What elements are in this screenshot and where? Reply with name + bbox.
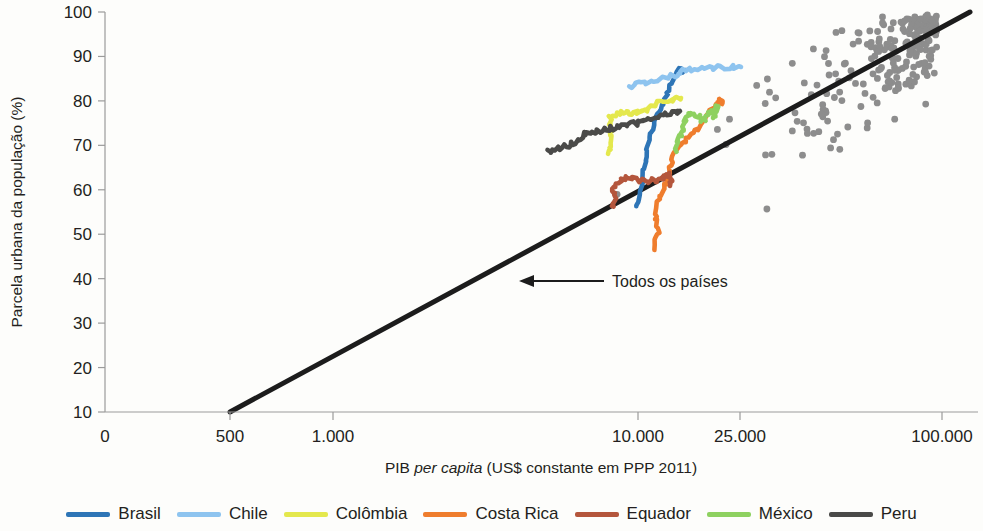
x-axis-title: PIB per capita (US$ constante em PPP 201… [385, 459, 697, 476]
scatter-point [794, 118, 801, 125]
scatter-point [910, 71, 917, 78]
legend-color-swatch [423, 512, 467, 517]
scatter-point [906, 77, 913, 84]
scatter-point [762, 100, 769, 107]
y-tick-label: 20 [73, 359, 92, 378]
scatter-point [890, 60, 897, 67]
scatter-point [907, 25, 914, 32]
legend-label: Brasil [118, 504, 161, 524]
scatter-point [926, 37, 933, 44]
x-tick-label: 1.000 [312, 427, 355, 446]
scatter-point [823, 47, 830, 54]
scatter-point [814, 82, 821, 89]
scatter-point [926, 53, 933, 60]
axes-layer [105, 12, 978, 412]
x-axis-title-text: PIB per capita (US$ constante em PPP 201… [385, 459, 697, 476]
scatter-point [844, 124, 851, 131]
scatter-point [801, 80, 808, 87]
scatter-point [764, 76, 771, 83]
annotation-arrow-head-icon [519, 275, 534, 287]
legend-item-brasil[interactable]: Brasil [66, 504, 161, 524]
x-tick-label: 25.000 [714, 427, 766, 446]
legend-label: Equador [627, 504, 691, 524]
legend-label: Costa Rica [475, 504, 558, 524]
legend-color-swatch [575, 512, 619, 517]
scatter-point [834, 131, 841, 138]
legend-color-swatch [284, 512, 328, 517]
scatter-point [762, 152, 769, 159]
scatter-point [882, 84, 889, 91]
scatter-point [839, 97, 846, 104]
chart-legend: BrasilChileColômbiaCosta RicaEquadorMéxi… [0, 497, 983, 531]
scatter-point [866, 28, 873, 35]
y-axis-title-text: Parcela urbana da população (%) [8, 97, 25, 328]
scatter-point [769, 151, 776, 158]
scatter-point [901, 17, 908, 24]
scatter-point [928, 47, 935, 54]
scatter-point [917, 16, 924, 23]
y-axis-ticks: 100908070605040302010 [64, 3, 105, 422]
scatter-point [830, 136, 837, 143]
x-tick-label: 100.000 [911, 427, 972, 446]
x-tick-label: 10.000 [612, 427, 664, 446]
scatter-point [868, 55, 875, 62]
scatter-point [833, 29, 840, 36]
chart-container: 100908070605040302010 05001.00010.00025.… [0, 0, 983, 531]
scatter-chart: 100908070605040302010 05001.00010.00025.… [0, 0, 983, 497]
scatter-point [879, 20, 886, 27]
scatter-point [877, 66, 884, 73]
scatter-point [855, 38, 862, 45]
legend-item-costa-rica[interactable]: Costa Rica [423, 504, 558, 524]
scatter-point [915, 61, 922, 68]
legend-item-equador[interactable]: Equador [575, 504, 691, 524]
scatter-point [839, 27, 846, 34]
annotation-label: Todos os países [612, 273, 728, 290]
legend-color-swatch [829, 512, 873, 517]
legend-label: Colômbia [336, 504, 408, 524]
legend-color-swatch [177, 512, 221, 517]
legend-item-chile[interactable]: Chile [177, 504, 268, 524]
scatter-point [824, 118, 831, 125]
scatter-point [836, 146, 843, 153]
scatter-point [917, 46, 924, 53]
scatter-point [804, 130, 811, 137]
scatter-point [818, 111, 825, 118]
scatter-point [825, 60, 832, 67]
scatter-point [874, 100, 881, 107]
legend-item-m-xico[interactable]: México [707, 504, 813, 524]
scatter-point [868, 43, 875, 50]
scatter-point [799, 152, 806, 159]
y-tick-label: 60 [73, 181, 92, 200]
y-tick-label: 70 [73, 136, 92, 155]
scatter-point [931, 70, 938, 77]
scatter-point [891, 67, 898, 74]
annotation-todos-os-paises: Todos os países [519, 273, 728, 290]
scatter-point [922, 59, 929, 66]
scatter-point [800, 119, 807, 126]
scatter-point [862, 90, 869, 97]
scatter-point [831, 94, 838, 101]
scatter-point [842, 60, 849, 67]
scatter-point [890, 19, 897, 26]
legend-color-swatch [707, 512, 751, 517]
scatter-point [922, 101, 929, 108]
legend-item-peru[interactable]: Peru [829, 504, 917, 524]
legend-item-col-mbia[interactable]: Colômbia [284, 504, 408, 524]
scatter-point [827, 145, 834, 152]
scatter-point [887, 36, 894, 43]
scatter-point [789, 127, 796, 134]
scatter-point [858, 103, 865, 110]
scatter-point [875, 48, 882, 55]
trendline-all-countries [230, 12, 970, 412]
y-tick-label: 80 [73, 92, 92, 111]
y-tick-label: 100 [64, 3, 92, 22]
scatter-point [766, 89, 773, 96]
scatter-point [924, 12, 931, 19]
x-axis-ticks: 05001.00010.00025.000100.000 [100, 412, 972, 446]
scatter-point [821, 53, 828, 60]
scatter-point [864, 120, 871, 127]
legend-label: México [759, 504, 813, 524]
scatter-point [855, 29, 862, 36]
scatter-point [764, 206, 771, 213]
y-axis-title: Parcela urbana da população (%) [8, 97, 25, 328]
